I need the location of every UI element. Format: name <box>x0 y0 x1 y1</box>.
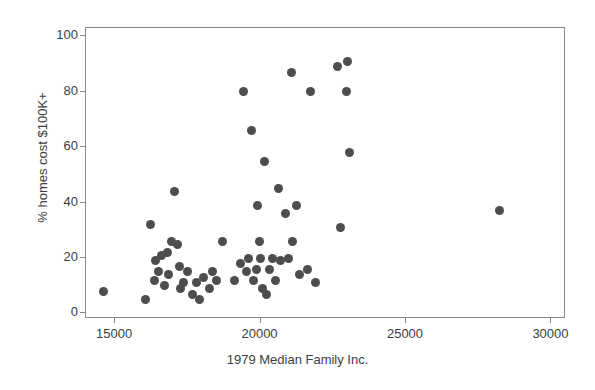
x-axis-tick-label: 20000 <box>241 327 277 341</box>
y-axis-tick-label: 100 <box>56 28 78 41</box>
scatter-point <box>218 237 227 246</box>
scatter-point <box>164 270 173 279</box>
scatter-point <box>287 68 296 77</box>
scatter-point <box>311 278 320 287</box>
scatter-point <box>154 267 163 276</box>
plot-area-frame <box>85 27 565 318</box>
scatter-point <box>255 237 264 246</box>
scatter-point <box>345 148 354 157</box>
scatter-point <box>239 87 248 96</box>
scatter-chart-figure: % homes cost $100K+ 020406080100 1500020… <box>0 0 595 390</box>
scatter-point <box>265 265 274 274</box>
x-axis-tick-mark <box>550 318 551 323</box>
scatter-point <box>230 276 239 285</box>
scatter-point <box>495 206 504 215</box>
scatter-point <box>306 87 315 96</box>
scatter-point <box>260 157 269 166</box>
scatter-point <box>303 265 312 274</box>
scatter-point <box>262 290 271 299</box>
scatter-point <box>183 267 192 276</box>
scatter-point <box>333 62 342 71</box>
scatter-point <box>336 223 345 232</box>
scatter-point <box>150 276 159 285</box>
scatter-point <box>249 276 258 285</box>
x-axis-tick-label: 25000 <box>387 327 423 341</box>
scatter-point <box>141 295 150 304</box>
scatter-point <box>281 209 290 218</box>
scatter-point <box>199 273 208 282</box>
scatter-point <box>288 237 297 246</box>
y-axis-tick-label: 80 <box>64 84 78 97</box>
scatter-point <box>274 184 283 193</box>
x-axis-tick-label: 15000 <box>96 327 132 341</box>
scatter-point <box>163 248 172 257</box>
x-axis-tick-mark <box>405 318 406 323</box>
x-axis-label: 1979 Median Family Inc. <box>0 352 595 367</box>
scatter-point <box>242 267 251 276</box>
scatter-point <box>179 278 188 287</box>
y-axis-tick-label: 0 <box>71 305 78 318</box>
scatter-point <box>212 276 221 285</box>
scatter-point <box>342 87 351 96</box>
scatter-point <box>173 240 182 249</box>
y-axis-label: % homes cost $100K+ <box>35 28 50 288</box>
scatter-point <box>292 201 301 210</box>
scatter-point <box>343 57 352 66</box>
scatter-point <box>253 201 262 210</box>
scatter-point <box>175 262 184 271</box>
x-axis-tick-mark <box>114 318 115 323</box>
scatter-point <box>160 281 169 290</box>
scatter-point <box>271 276 280 285</box>
scatter-point <box>284 254 293 263</box>
x-axis-tick-label: 30000 <box>532 327 568 341</box>
scatter-point <box>146 220 155 229</box>
scatter-point <box>247 126 256 135</box>
y-axis-tick-label: 20 <box>64 250 78 263</box>
scatter-point <box>244 254 253 263</box>
scatter-point <box>99 287 108 296</box>
y-axis-tick-label: 40 <box>64 195 78 208</box>
x-axis-tick-mark <box>260 318 261 323</box>
scatter-points-layer <box>86 28 564 317</box>
scatter-point <box>268 254 277 263</box>
scatter-point <box>195 295 204 304</box>
scatter-point <box>256 254 265 263</box>
y-axis-tick-label: 60 <box>64 139 78 152</box>
scatter-point <box>205 284 214 293</box>
scatter-point <box>252 265 261 274</box>
scatter-point <box>170 187 179 196</box>
